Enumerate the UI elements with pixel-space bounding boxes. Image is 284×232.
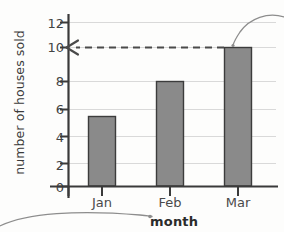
bar-feb: [157, 82, 184, 187]
bar-jan: [89, 117, 116, 187]
bar-chart: number of houses sold month 12 10 8 6 4 …: [0, 0, 284, 232]
bar-mar: [225, 48, 252, 187]
xlabel-callout-curve: [0, 213, 152, 228]
bar-callout-curve: [231, 15, 284, 47]
bar-series: [89, 48, 252, 187]
